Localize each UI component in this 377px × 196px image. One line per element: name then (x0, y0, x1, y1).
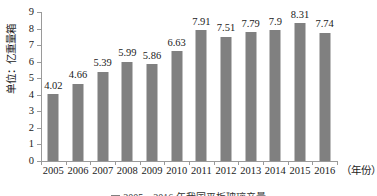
bar-chart: 单位：亿重量箱 0123456789 4.024.665.395.995.866… (0, 0, 377, 196)
bar (319, 33, 330, 161)
bar-value-label: 8.31 (291, 10, 309, 21)
bar (294, 23, 305, 161)
bar-group: 7.74 (312, 12, 337, 161)
x-axis-tick-label: 2008 (117, 166, 138, 177)
bar (196, 30, 207, 161)
bar-group: 4.02 (41, 12, 66, 161)
bar (122, 62, 133, 161)
bar-value-label: 6.63 (167, 38, 185, 49)
x-axis-tick-label: 2006 (68, 166, 89, 177)
x-axis-tick-label: 2012 (216, 166, 237, 177)
x-axis-tick (337, 161, 338, 165)
bar (220, 37, 231, 161)
bar-group: 8.31 (288, 12, 313, 161)
y-axis-tick-label: 9 (29, 7, 34, 18)
y-axis-tick-label: 8 (29, 23, 34, 34)
figure-caption: 2005—2016 年我国平板玻璃产量 (0, 189, 377, 196)
bar (97, 72, 108, 161)
bar-group: 7.51 (214, 12, 239, 161)
bar (72, 84, 83, 161)
x-axis-tick-label: 2011 (191, 166, 212, 177)
x-axis-tick-label: 2009 (142, 166, 163, 177)
bar-group: 4.66 (66, 12, 91, 161)
bar-value-label: 5.86 (143, 51, 161, 62)
x-axis-tick-label: 2014 (265, 166, 286, 177)
y-axis-tick-label: 6 (29, 56, 34, 67)
y-axis-tick-label: 4 (29, 90, 34, 101)
bar-value-label: 4.66 (69, 70, 87, 81)
bar-group: 7.79 (238, 12, 263, 161)
bar-value-label: 5.99 (118, 48, 136, 59)
bar-group: 7.91 (189, 12, 214, 161)
x-axis-tick-label: 2005 (43, 166, 64, 177)
x-axis-tick (140, 161, 141, 165)
x-axis-tick-label: 2015 (290, 166, 311, 177)
x-axis-tick-label: 2010 (166, 166, 187, 177)
x-axis-tick-label: 2016 (314, 166, 335, 177)
bar (48, 94, 59, 161)
bar-value-label: 4.02 (44, 81, 62, 92)
y-axis-tick-label: 7 (29, 40, 34, 51)
bar (146, 64, 157, 161)
bar (245, 32, 256, 161)
y-axis-tick-label: 1 (29, 139, 34, 150)
legend-swatch-icon (111, 195, 120, 196)
bar-group: 7.9 (263, 12, 288, 161)
x-axis-title: （年份） (341, 166, 377, 177)
x-axis-tick (288, 161, 289, 165)
bars-layer: 4.024.665.395.995.866.637.917.517.797.98… (41, 12, 337, 161)
bar (270, 30, 281, 161)
y-axis-title: 单位：亿重量箱 (5, 9, 19, 109)
bar-group: 5.39 (90, 12, 115, 161)
bar-value-label: 5.39 (93, 58, 111, 69)
figure-caption-text: 2005—2016 年我国平板玻璃产量 (123, 192, 266, 196)
x-axis-tick-label: 2013 (240, 166, 261, 177)
x-axis-tick (66, 161, 67, 165)
x-axis-tick (214, 161, 215, 165)
y-axis-tick-label: 3 (29, 106, 34, 117)
bar-group: 6.63 (164, 12, 189, 161)
bar-group: 5.86 (140, 12, 165, 161)
y-axis-tick-label: 0 (29, 156, 34, 167)
x-axis-tick-label: 2007 (92, 166, 113, 177)
bar-value-label: 7.91 (192, 17, 210, 28)
x-axis-tick (189, 161, 190, 165)
y-axis-tick-label: 5 (29, 73, 34, 84)
bar-value-label: 7.9 (269, 17, 282, 28)
bar-value-label: 7.79 (241, 19, 259, 30)
bar-group: 5.99 (115, 12, 140, 161)
bar-value-label: 7.51 (217, 23, 235, 34)
y-axis-tick-label: 2 (29, 123, 34, 134)
bar (171, 51, 182, 161)
plot-area: 0123456789 4.024.665.395.995.866.637.917… (41, 12, 337, 162)
bar-value-label: 7.74 (315, 19, 333, 30)
